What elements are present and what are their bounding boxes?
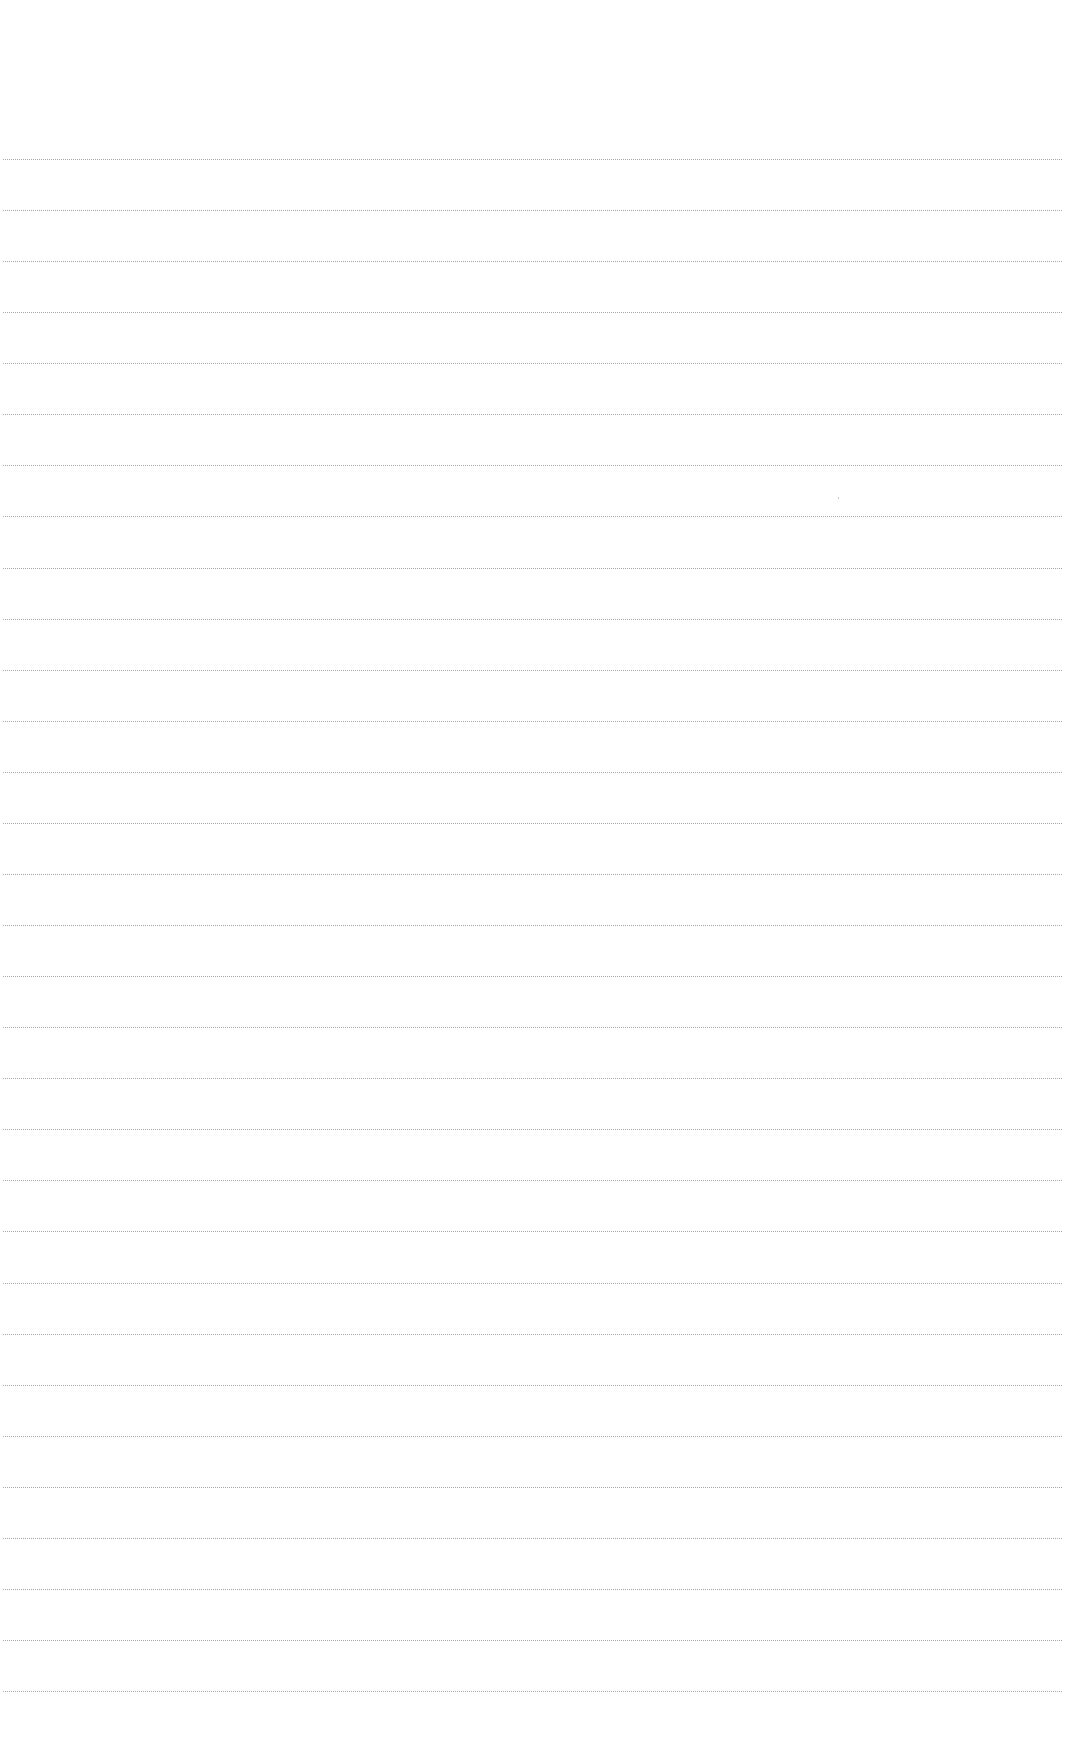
- ruled-line: [3, 363, 1062, 364]
- ruled-line: [3, 261, 1062, 262]
- lined-paper-page: [0, 0, 1066, 1743]
- ruled-line: [3, 414, 1062, 415]
- ruled-line: [3, 1538, 1062, 1539]
- ruled-line: [3, 721, 1062, 722]
- ruled-line: [3, 159, 1062, 160]
- ruled-line: [3, 568, 1062, 569]
- ruled-line: [3, 1385, 1062, 1386]
- ruled-line: [3, 874, 1062, 875]
- ruled-line: [3, 925, 1062, 926]
- ruled-line: [3, 1129, 1062, 1130]
- ruled-line: [3, 1231, 1062, 1232]
- ruled-line: [3, 772, 1062, 773]
- ruled-line: [3, 976, 1062, 977]
- ruled-line: [3, 670, 1062, 671]
- paper-speck: [838, 497, 839, 499]
- ruled-line: [3, 1334, 1062, 1335]
- ruled-line: [3, 1640, 1062, 1641]
- ruled-line: [3, 1078, 1062, 1079]
- ruled-line: [3, 516, 1062, 517]
- ruled-line: [3, 465, 1062, 466]
- ruled-line: [3, 1436, 1062, 1437]
- ruled-line: [3, 1180, 1062, 1181]
- ruled-line: [3, 210, 1062, 211]
- ruled-line: [3, 823, 1062, 824]
- ruled-line: [3, 1589, 1062, 1590]
- ruled-line: [3, 1487, 1062, 1488]
- ruled-line: [3, 1027, 1062, 1028]
- ruled-line: [3, 1283, 1062, 1284]
- ruled-line: [3, 1691, 1062, 1692]
- ruled-line: [3, 312, 1062, 313]
- ruled-line: [3, 619, 1062, 620]
